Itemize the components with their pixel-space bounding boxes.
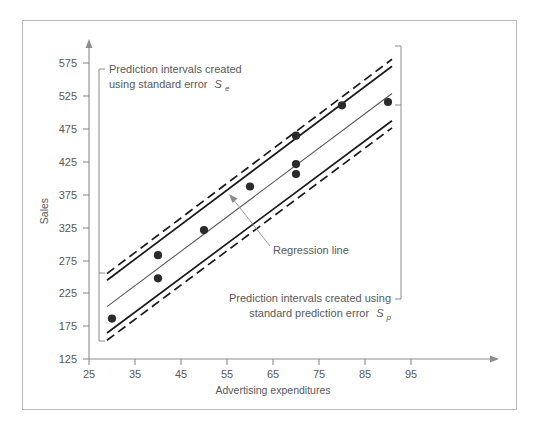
x-tick-label: 75 — [313, 368, 325, 380]
y-axis — [86, 39, 93, 359]
y-tick-label: 575 — [59, 57, 77, 69]
x-tick-label: 35 — [129, 368, 141, 380]
y-tick-label: 175 — [59, 320, 77, 332]
sp-bracket — [395, 46, 401, 299]
data-point — [200, 226, 208, 234]
y-tick-label: 375 — [59, 189, 77, 201]
se-annotation-line1: Prediction intervals created — [109, 63, 242, 75]
x-tick-label: 65 — [267, 368, 279, 380]
x-tick-label: 95 — [405, 368, 417, 380]
x-tickmarks — [89, 359, 411, 365]
svg-text:standard prediction error: standard prediction error S p — [249, 307, 391, 322]
se-annotation-symbol: S — [215, 78, 223, 90]
y-tick-label: 425 — [59, 156, 77, 168]
y-tick-label: 275 — [59, 255, 77, 267]
scatter-plot: 575 525 475 425 375 325 275 225 175 125 … — [23, 21, 516, 409]
sp-annotation-subscript: p — [386, 313, 392, 322]
regression-line — [107, 94, 392, 307]
y-tick-label: 475 — [59, 123, 77, 135]
x-tick-label: 25 — [83, 368, 95, 380]
sp-annotation-line2: standard prediction error — [249, 307, 369, 319]
figure-frame: 575 525 475 425 375 325 275 225 175 125 … — [22, 20, 517, 410]
data-point — [108, 315, 116, 323]
x-axis-title: Advertising expenditures — [216, 384, 331, 396]
y-tick-label: 125 — [59, 353, 77, 365]
y-axis-title: Sales — [38, 198, 50, 224]
y-axis-arrowhead — [86, 39, 93, 48]
se-annotation-line2: using standard error — [109, 78, 208, 90]
se-annotation: Prediction intervals created using stand… — [109, 63, 242, 93]
data-point — [292, 160, 300, 168]
prediction-interval-upper-se — [107, 66, 392, 280]
data-point — [292, 132, 300, 140]
se-bracket — [99, 69, 105, 341]
data-point — [246, 182, 254, 190]
x-tick-labels: 25 35 45 55 65 75 85 95 — [83, 368, 417, 380]
data-points — [108, 98, 392, 323]
x-tick-label: 55 — [221, 368, 233, 380]
data-point — [154, 251, 162, 259]
data-point — [338, 101, 346, 109]
sp-annotation: Prediction intervals created using stand… — [229, 292, 392, 322]
data-point — [292, 170, 300, 178]
regression-line-callout: Regression line — [229, 194, 349, 256]
y-tickmarks — [83, 63, 89, 359]
x-axis — [89, 356, 499, 363]
x-tick-label: 45 — [175, 368, 187, 380]
regression-callout-arrowhead — [229, 194, 238, 203]
y-tick-label: 325 — [59, 222, 77, 234]
svg-text:using standard error S: using standard error S e — [109, 78, 230, 93]
prediction-interval-upper-sp — [107, 59, 392, 273]
data-point — [384, 98, 392, 106]
sp-annotation-symbol: S — [376, 307, 384, 319]
y-tick-label: 525 — [59, 90, 77, 102]
y-tick-labels: 575 525 475 425 375 325 275 225 175 125 — [59, 57, 77, 365]
se-annotation-subscript: e — [225, 84, 230, 93]
y-tick-label: 225 — [59, 287, 77, 299]
x-tick-label: 85 — [359, 368, 371, 380]
data-point — [154, 274, 162, 282]
sp-annotation-line1: Prediction intervals created using — [229, 292, 391, 304]
regression-line-label: Regression line — [273, 244, 349, 256]
x-axis-arrowhead — [490, 356, 499, 363]
